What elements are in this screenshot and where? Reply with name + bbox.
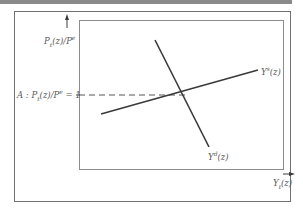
demand-curve <box>155 40 209 147</box>
y-axis-arrow-icon <box>65 14 69 28</box>
reference-line-label: A : Pt(z)/Pe = 1 <box>17 89 81 102</box>
demand-curve-label: Yd(z) <box>208 151 229 161</box>
x-axis-label: Yt(z) <box>273 179 292 190</box>
supply-curve <box>101 70 258 114</box>
supply-curve-label: Ys(z) <box>261 66 281 76</box>
x-axis-arrow-icon <box>283 172 295 176</box>
diagram-canvas <box>0 0 303 211</box>
y-axis-label: Pt(z)/Pe <box>44 35 75 48</box>
